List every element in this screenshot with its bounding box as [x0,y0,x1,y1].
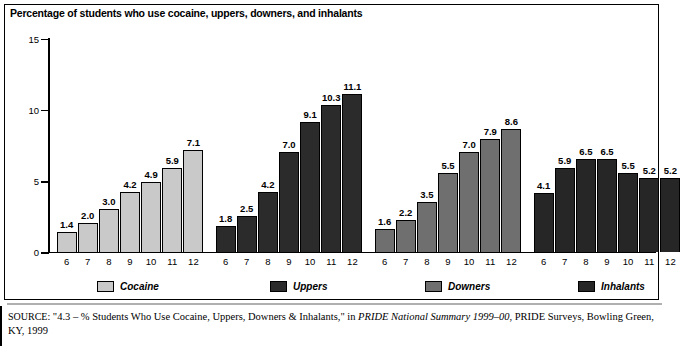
legend-item-uppers[interactable]: Uppers [270,281,327,292]
bar-slot: 1.46 [56,38,77,252]
x-tick-label: 8 [583,256,588,267]
bar-value-label: 4.9 [145,169,158,180]
bar[interactable] [141,182,161,252]
plot-area: 051015 1.462.073.084.294.9105.9117.1121.… [48,38,656,253]
x-tick-label: 6 [541,256,546,267]
bar-slot: 10.311 [321,38,342,252]
bar-value-label: 7.0 [282,139,295,150]
bar[interactable] [396,220,416,251]
bar-slot: 7.010 [459,38,480,252]
x-tick-label: 11 [644,256,654,267]
x-tick-label: 10 [146,256,157,267]
x-tick-label: 12 [665,256,676,267]
bar[interactable] [78,223,98,251]
x-tick-label: 6 [382,256,387,267]
legend-item-downers[interactable]: Downers [425,281,490,292]
x-tick-label: 8 [106,256,111,267]
bar-value-label: 3.0 [102,196,115,207]
bar[interactable] [216,226,236,252]
bar[interactable] [501,129,521,251]
bar-value-label: 1.8 [219,213,232,224]
bar-slot: 5.510 [618,38,639,252]
bar-slot: 3.58 [416,38,437,252]
x-tick-label: 8 [265,256,270,267]
source-publication: PRIDE National Summary 1999–00 [358,311,509,322]
bar-slot: 1.86 [215,38,236,252]
y-axis [48,38,50,253]
bar[interactable] [321,105,341,252]
bar-value-label: 1.6 [378,216,391,227]
legend-item-cocaine[interactable]: Cocaine [97,281,159,292]
bar[interactable] [99,209,119,252]
x-axis [48,252,656,254]
x-tick-label: 7 [244,256,249,267]
bar[interactable] [639,178,659,252]
x-tick-label: 12 [188,256,199,267]
bar[interactable] [237,216,257,252]
bar-group: 1.462.073.084.294.9105.9117.112 [56,38,204,252]
bar[interactable] [375,229,395,252]
bar[interactable] [480,139,500,251]
bar[interactable] [555,168,575,252]
legend-swatch [425,281,442,292]
source-keyword: SOURCE: [8,311,50,322]
legend-label: Inhalants [601,281,645,292]
bar[interactable] [597,159,617,252]
x-tick-label: 11 [485,256,495,267]
bar[interactable] [183,150,203,251]
bar-slot: 5.212 [660,38,681,252]
bar-slot: 2.57 [236,38,257,252]
bar-value-label: 5.2 [643,165,656,176]
y-tick-label: 10 [28,104,39,115]
x-tick-label: 6 [223,256,228,267]
bar-slot: 6.58 [575,38,596,252]
bar[interactable] [258,192,278,252]
bar-value-label: 5.9 [166,155,179,166]
x-tick-label: 9 [286,256,291,267]
bar[interactable] [120,192,140,252]
bar-slot: 2.27 [395,38,416,252]
bar-value-label: 4.2 [123,179,136,190]
frame-shadow [7,303,662,305]
x-tick-label: 10 [464,256,475,267]
legend-item-inhalants[interactable]: Inhalants [578,281,645,292]
bar[interactable] [576,159,596,252]
source-text-1: "4.3 – % Students Who Use Cocaine, Upper… [50,311,358,322]
bar[interactable] [660,178,680,252]
bar-value-label: 5.9 [558,155,571,166]
bar-value-label: 9.1 [304,109,317,120]
bar[interactable] [417,202,437,252]
legend-swatch [578,281,595,292]
bar[interactable] [342,94,362,252]
bar[interactable] [618,173,638,251]
bar-slot: 8.612 [501,38,522,252]
bar[interactable] [438,173,458,251]
bar[interactable] [57,232,77,252]
bar-value-label: 7.1 [187,137,200,148]
x-tick-label: 6 [64,256,69,267]
bar-slot: 11.112 [342,38,363,252]
bar[interactable] [534,193,554,251]
bar[interactable] [279,152,299,252]
bar[interactable] [162,168,182,252]
bar-value-label: 6.5 [600,146,613,157]
bar-slot: 7.911 [480,38,501,252]
legend-label: Uppers [293,281,327,292]
y-tick-mark [41,252,49,254]
bar-value-label: 6.5 [579,146,592,157]
x-tick-label: 9 [127,256,132,267]
bar[interactable] [300,122,320,252]
legend-swatch [97,281,114,292]
y-tick-mark [41,39,49,41]
bar-value-label: 4.2 [261,179,274,190]
bar[interactable] [459,152,479,252]
bar-group: 4.165.976.586.595.5105.2115.212 [533,38,681,252]
bar-value-label: 2.5 [240,203,253,214]
bar-value-label: 7.0 [463,139,476,150]
bar-value-label: 5.5 [622,160,635,171]
bar-value-label: 8.6 [505,116,518,127]
bar-group: 1.662.273.585.597.0107.9118.612 [374,38,522,252]
bar-slot: 6.59 [596,38,617,252]
bar-slot: 4.29 [119,38,140,252]
